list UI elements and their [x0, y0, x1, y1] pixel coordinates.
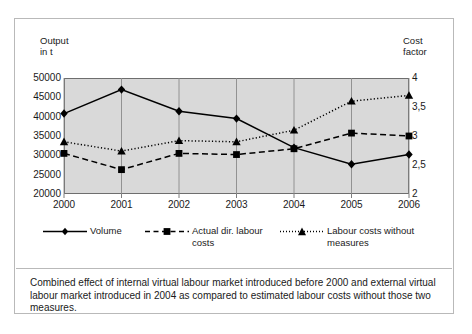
data-point-marker — [118, 85, 125, 93]
legend-label-volume: Volume — [90, 225, 122, 237]
left-axis-tick-label: 35000 — [33, 131, 61, 141]
data-point-marker — [233, 151, 240, 158]
left-axis-tick-label: 20000 — [33, 189, 61, 199]
x-axis-tick-label: 2004 — [283, 199, 305, 211]
x-axis-tick-label: 2000 — [53, 199, 75, 211]
left-axis-tick-label: 40000 — [33, 112, 61, 122]
right-axis-tick-label: 2,5 — [412, 160, 426, 170]
right-axis-tick-label: 2 — [412, 189, 418, 199]
data-point-marker — [291, 145, 298, 152]
right-axis-tick-label: 4 — [412, 73, 418, 83]
left-axis-tick-label: 25000 — [33, 170, 61, 180]
x-axis-ticks: 2000200120022003200420052006 — [64, 199, 409, 213]
x-axis-tick-label: 2001 — [110, 199, 132, 211]
plot-wrap — [64, 78, 409, 194]
data-point-marker — [233, 114, 240, 122]
legend-sample-labour-costs-without-measures — [280, 226, 324, 237]
data-point-marker — [406, 133, 413, 140]
right-axis-tick-label: 3 — [412, 131, 418, 141]
x-axis-tick-label: 2006 — [398, 199, 420, 211]
data-point-marker — [61, 150, 68, 157]
data-point-marker — [118, 166, 125, 173]
series-canvas — [64, 78, 409, 194]
legend-item-actual-dir-labour-costs: Actual dir. labour costs — [145, 225, 263, 248]
data-point-marker — [348, 130, 355, 137]
left-axis-tick-label: 45000 — [33, 92, 61, 102]
figure-caption: Combined effect of internal virtual labo… — [30, 277, 440, 315]
legend-item-volume: Volume — [43, 225, 122, 237]
right-axis-tick-label: 3,5 — [412, 102, 426, 112]
legend-item-labour-costs-without-measures: Labour costs without measures — [280, 225, 453, 248]
data-point-marker — [60, 109, 67, 117]
left-axis-tick-label: 30000 — [33, 150, 61, 160]
x-axis-tick-label: 2003 — [225, 199, 247, 211]
left-axis-ticks: 20000250003000035000400004500050000 — [15, 78, 61, 194]
data-point-marker — [175, 107, 182, 115]
x-axis-tick-label: 2002 — [168, 199, 190, 211]
data-point-marker — [290, 126, 298, 134]
left-axis-tick-label: 50000 — [33, 73, 61, 83]
data-point-marker — [348, 160, 355, 168]
right-axis-title: Cost factor — [403, 36, 427, 57]
figure-panel: Output in t Cost factor 2000025000300003… — [14, 18, 454, 314]
divider — [16, 268, 452, 269]
left-axis-title: Output in t — [40, 36, 69, 57]
x-axis-tick-label: 2005 — [340, 199, 362, 211]
legend-sample-actual-dir-labour-costs — [145, 226, 189, 237]
right-axis-ticks: 22,533,54 — [412, 78, 452, 194]
legend-label-actual-dir-labour-costs: Actual dir. labour costs — [192, 225, 263, 248]
chart: Output in t Cost factor 2000025000300003… — [15, 19, 453, 219]
data-point-marker — [176, 150, 183, 157]
legend-label-labour-costs-without-measures: Labour costs without measures — [327, 225, 453, 248]
chart-legend: Volume Actual dir. labour costs Labour c… — [15, 219, 453, 263]
legend-sample-volume — [43, 226, 87, 237]
